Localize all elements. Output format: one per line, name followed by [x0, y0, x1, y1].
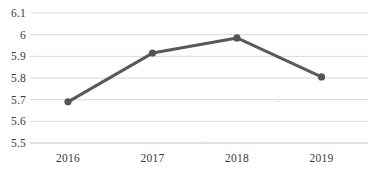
data-point-2016	[64, 98, 71, 105]
ytick-label-2: 5.9	[0, 50, 26, 62]
ytick-label-0: 6.1	[0, 7, 26, 19]
xtick-label-2016: 2016	[56, 152, 80, 164]
xtick-label-2019: 2019	[310, 152, 334, 164]
ytick-label-3: 5.8	[0, 72, 26, 84]
xtick-label-2018: 2018	[225, 152, 249, 164]
data-point-2018	[233, 34, 240, 41]
data-line-series-1	[68, 38, 322, 102]
ytick-label-1: 6	[0, 29, 26, 41]
data-point-2019	[318, 73, 325, 80]
plot-area	[0, 0, 377, 176]
ytick-label-5: 5.6	[0, 115, 26, 127]
line-chart: 6.1 6 5.9 5.8 5.7 5.6 5.5 2016 2017 2018…	[0, 0, 377, 176]
ytick-label-6: 5.5	[0, 137, 26, 149]
gridlines	[30, 13, 368, 143]
data-point-2017	[149, 49, 156, 56]
xtick-label-2017: 2017	[141, 152, 165, 164]
ytick-label-4: 5.7	[0, 94, 26, 106]
